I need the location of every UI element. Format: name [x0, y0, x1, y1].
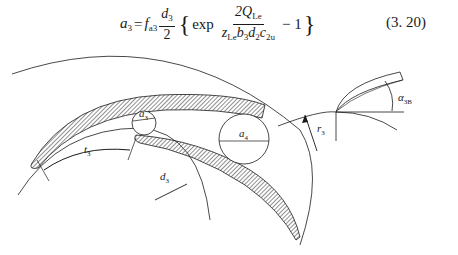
equation-number: (3. 20): [386, 14, 426, 31]
label-t3: t3: [84, 143, 91, 158]
label-alpha3B: α3B: [398, 91, 412, 106]
blade-geometry-drawing: [0, 40, 458, 255]
eq-equals: =: [134, 16, 142, 33]
lower-blade: [135, 135, 300, 240]
eq-minus-one: − 1: [282, 16, 302, 33]
eq-exp: exp: [192, 16, 214, 33]
outer-diameter-arc: [12, 56, 313, 245]
eq-lhs: a3: [120, 15, 132, 33]
label-r3: r3: [317, 122, 325, 137]
eq-right-brace: }: [304, 12, 316, 36]
eq-left-brace: {: [179, 12, 191, 36]
impeller-blade-diagram: a3 a4 t3 d3 r3 α3B: [0, 40, 458, 255]
label-d3: d3: [160, 170, 169, 185]
angle-arc-alpha3B: [385, 81, 393, 111]
label-a3: a3: [139, 107, 148, 122]
eq-fraction-exponent: 2QLe zLeb3d2c2u: [220, 4, 277, 45]
inlet-circle-arc: [278, 112, 397, 130]
eq-coef: fa3: [144, 15, 157, 33]
equation-body: a3 = fa3 d3 2 { exp 2QLe zLeb3d2c2u − 1 …: [120, 6, 317, 42]
eq-fraction-d3-over-2: d3 2: [159, 6, 175, 42]
label-a4: a4: [239, 127, 248, 142]
